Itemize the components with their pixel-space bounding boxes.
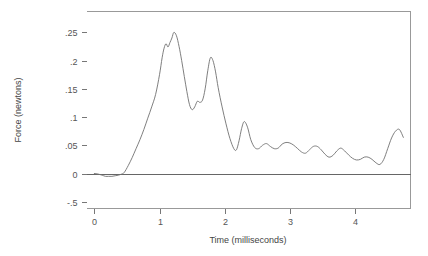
y-tick-label: .15 (65, 85, 78, 95)
chart-canvas: -.50.05.1.15.2.25 01234 Time (millisecon… (0, 0, 428, 256)
x-tick-label: 4 (353, 217, 358, 227)
plot-frame-border (87, 12, 411, 209)
y-axis-ticks: -.50.05.1.15.2.25 (65, 28, 87, 208)
y-tick-label: .25 (65, 28, 78, 38)
plot-frame (87, 12, 411, 209)
x-tick-label: 2 (223, 217, 228, 227)
x-tick-label: 3 (288, 217, 293, 227)
x-tick-label: 1 (158, 217, 163, 227)
y-tick-label: .05 (65, 141, 78, 151)
force-vs-time-chart-figure: -.50.05.1.15.2.25 01234 Time (millisecon… (0, 0, 428, 256)
y-axis-title: Force (newtons) (13, 77, 23, 142)
x-tick-label: 0 (92, 217, 97, 227)
y-tick-label: .2 (70, 57, 78, 67)
x-axis-title: Time (milliseconds) (209, 235, 286, 245)
y-tick-label: -.5 (67, 198, 78, 208)
y-tick-label: 0 (72, 170, 77, 180)
force-data-curve (94, 32, 403, 176)
x-axis-ticks: 01234 (92, 209, 358, 227)
y-tick-label: .1 (70, 113, 78, 123)
